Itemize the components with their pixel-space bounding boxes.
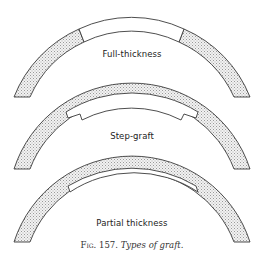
partial-thickness-diagram	[14, 156, 250, 242]
figure-number: Fig. 157.	[81, 240, 118, 250]
label-partial-thickness: Partial thickness	[0, 218, 264, 228]
figure-title: Types of graft.	[121, 240, 184, 250]
label-step-graft: Step-graft	[0, 131, 264, 141]
figure-caption: Fig. 157. Types of graft.	[0, 240, 264, 250]
host-tissue-right	[179, 29, 250, 97]
label-full-thickness: Full-thickness	[0, 49, 264, 59]
graft-full	[79, 17, 184, 42]
host-tissue-left	[14, 29, 84, 97]
